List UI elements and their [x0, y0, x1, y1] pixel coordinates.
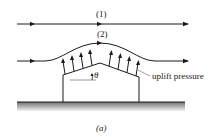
wind-over-roof-diagram: (1) (2) θ uplift	[0, 0, 223, 137]
flow-arrow-icon	[97, 41, 102, 45]
ground	[17, 102, 185, 111]
flow-arrow-icon	[183, 22, 189, 26]
uplift-pressure-label: uplift pressure	[152, 71, 204, 81]
flow-arrow-icon	[30, 22, 35, 26]
streamline-1-label: (1)	[96, 9, 107, 19]
theta-label: θ	[94, 70, 99, 80]
angle-theta	[70, 73, 96, 80]
figure-caption: (a)	[96, 123, 107, 133]
annotation-leader	[138, 70, 150, 76]
flow-arrow-icon	[183, 59, 189, 63]
flow-arrow-icon	[97, 22, 102, 26]
streamline-2-label: (2)	[97, 29, 108, 39]
streamline-2	[17, 41, 189, 63]
flow-arrow-icon	[30, 59, 35, 63]
streamline-1	[17, 22, 189, 26]
